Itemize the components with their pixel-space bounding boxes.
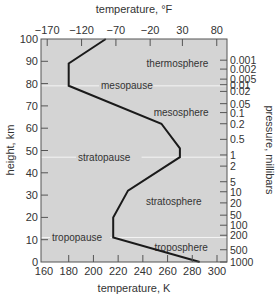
y2-tick-label: 2 xyxy=(230,160,236,172)
x-tick-label: 220 xyxy=(109,265,127,277)
x-tick-label: 200 xyxy=(84,265,102,277)
y-tick-label: 10 xyxy=(26,234,38,246)
y2-tick-label: 0.02 xyxy=(230,85,251,97)
x-tick-label: 280 xyxy=(183,265,201,277)
y-tick-label: 70 xyxy=(26,100,38,112)
y2-tick-label: 1000 xyxy=(230,256,254,268)
y-axis-label: height, km xyxy=(4,125,16,176)
boundary-label-stratopause: stratopause xyxy=(78,152,131,163)
layer-label-stratosphere: stratosphere xyxy=(146,196,202,207)
x2-tick-label: 80 xyxy=(211,24,223,36)
boundary-label-mesopause: mesopause xyxy=(101,80,153,91)
x2-tick-label: −70 xyxy=(107,24,126,36)
y2-tick-label: 0.2 xyxy=(230,118,245,130)
atmosphere-temperature-chart: tropopausestratopausemesopause troposphe… xyxy=(0,0,275,297)
y2-tick-label: 200 xyxy=(230,229,248,241)
y2-tick-label: 0.5 xyxy=(230,133,245,145)
y-tick-label: 0 xyxy=(32,256,38,268)
x2-axis-label: temperature, °F xyxy=(96,3,173,15)
layer-label-mesosphere: mesosphere xyxy=(154,107,209,118)
y-tick-label: 20 xyxy=(26,211,38,223)
x2-tick-label: −120 xyxy=(69,24,94,36)
x2-tick-label: −170 xyxy=(35,24,60,36)
x2-tick-label: 30 xyxy=(176,24,188,36)
y-tick-label: 90 xyxy=(26,55,38,67)
layer-label-thermosphere: thermosphere xyxy=(147,58,209,69)
chart-canvas: tropopausestratopausemesopause troposphe… xyxy=(0,0,275,297)
y-tick-label: 100 xyxy=(20,33,38,45)
y-tick-label: 40 xyxy=(26,167,38,179)
x2-tick-label: −20 xyxy=(141,24,160,36)
y2-axis-label: pressure, millibars xyxy=(264,105,275,195)
x-tick-label: 180 xyxy=(60,265,78,277)
y-tick-label: 80 xyxy=(26,78,38,90)
y-tick-label: 30 xyxy=(26,189,38,201)
y2-tick-label: 500 xyxy=(230,244,248,256)
boundary-label-tropopause: tropopause xyxy=(52,232,102,243)
x-tick-label: 300 xyxy=(208,265,226,277)
y-tick-label: 60 xyxy=(26,122,38,134)
x-axis-label: temperature, K xyxy=(98,282,171,294)
y-tick-label: 50 xyxy=(26,145,38,157)
y2-tick-label: 20 xyxy=(230,197,242,209)
x-tick-label: 260 xyxy=(158,265,176,277)
x-tick-label: 240 xyxy=(134,265,152,277)
